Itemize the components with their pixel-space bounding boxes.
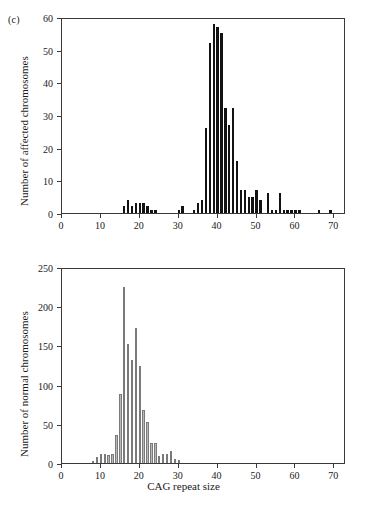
bar [259, 200, 261, 213]
y-tick-mark [57, 18, 61, 19]
x-tick-label: 10 [95, 220, 105, 231]
bar [213, 24, 215, 213]
bar [205, 128, 207, 213]
bar [131, 206, 133, 213]
x-tick-mark [217, 464, 218, 468]
bar [220, 33, 222, 213]
y-axis-label-normal: Number of normal chromosomes [18, 311, 30, 457]
x-tick-label: 30 [173, 220, 183, 231]
x-tick-mark [333, 214, 334, 218]
x-tick-mark [61, 464, 62, 468]
x-tick-mark [294, 214, 295, 218]
bar [275, 210, 277, 213]
bar [150, 210, 152, 213]
bar [271, 210, 273, 213]
x-tick-label: 60 [289, 220, 299, 231]
bar [142, 203, 144, 213]
bar [100, 454, 102, 463]
bar [146, 206, 148, 213]
x-tick-label: 70 [328, 220, 338, 231]
x-tick-mark [61, 214, 62, 218]
x-tick-mark [178, 214, 179, 218]
bar [178, 210, 180, 213]
bar [279, 193, 281, 213]
bar [131, 360, 133, 463]
bar [166, 454, 168, 463]
bar [298, 210, 300, 213]
bar [92, 461, 94, 463]
x-tick-label: 20 [134, 220, 144, 231]
y-tick-mark [57, 83, 61, 84]
bar [267, 193, 269, 213]
bar [96, 457, 98, 463]
x-tick-mark [217, 214, 218, 218]
bar [146, 422, 148, 463]
bar [135, 328, 137, 463]
bar [170, 451, 172, 463]
bar [228, 125, 230, 213]
x-tick-mark [256, 214, 257, 218]
bar [197, 203, 199, 213]
bars-affected [62, 19, 344, 213]
bar [255, 190, 257, 213]
x-tick-mark [100, 464, 101, 468]
plot-area-affected [61, 18, 345, 214]
y-axis-label-affected: Number of affected chromosomes [18, 56, 30, 206]
y-tick-label: 0 [21, 209, 53, 220]
bar [244, 190, 246, 213]
bar [216, 27, 218, 213]
bar [104, 454, 106, 463]
bar [139, 203, 141, 213]
bar [181, 206, 183, 213]
x-tick-label: 50 [251, 220, 261, 231]
bar [174, 459, 176, 463]
bar [286, 210, 288, 213]
bar [142, 410, 144, 463]
y-tick-mark [57, 425, 61, 426]
bar [135, 203, 137, 213]
bar [139, 366, 141, 463]
bar [236, 161, 238, 213]
bar [111, 454, 113, 463]
bars-normal [62, 269, 344, 463]
x-tick-mark [333, 464, 334, 468]
bar [123, 206, 125, 213]
plot-area-normal [61, 268, 345, 464]
bar [158, 456, 160, 463]
y-tick-mark [57, 181, 61, 182]
y-tick-mark [57, 307, 61, 308]
x-tick-mark [100, 214, 101, 218]
bar [294, 210, 296, 213]
x-axis-label: CAG repeat size [0, 480, 367, 492]
x-tick-label: 0 [59, 220, 64, 231]
bar [240, 190, 242, 213]
y-tick-label: 0 [21, 459, 53, 470]
y-tick-mark [57, 51, 61, 52]
y-tick-label: 250 [21, 263, 53, 274]
bar [123, 287, 125, 463]
bar [154, 443, 156, 463]
bar [150, 443, 152, 463]
bar [115, 435, 117, 463]
chart-affected-chromosomes: 0102030405060 010203040506070 Number of … [0, 0, 367, 248]
y-tick-mark [57, 268, 61, 269]
bar [193, 210, 195, 213]
y-tick-mark [57, 149, 61, 150]
bar [251, 197, 253, 213]
bar [224, 108, 226, 213]
chart-normal-chromosomes: 050100150200250 010203040506070 Number o… [0, 248, 367, 509]
bar [178, 460, 180, 463]
x-tick-mark [139, 214, 140, 218]
bar [290, 210, 292, 213]
x-tick-label: 40 [212, 220, 222, 231]
bar [154, 210, 156, 213]
x-tick-mark [178, 464, 179, 468]
bar [107, 455, 109, 463]
bar [209, 43, 211, 213]
y-tick-label: 60 [21, 13, 53, 24]
bar [248, 197, 250, 213]
bar [119, 394, 121, 463]
y-tick-mark [57, 116, 61, 117]
bar [232, 108, 234, 213]
bar [318, 210, 320, 213]
